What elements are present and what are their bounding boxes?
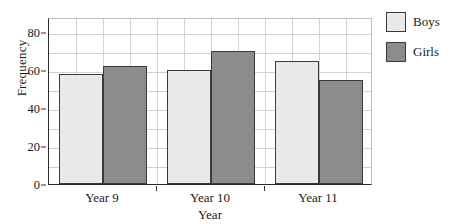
y-tick-label: 40 [28,102,41,117]
bar-year-10-girls [211,51,255,184]
y-axis-ticks: 020406080 [20,18,46,185]
bar-year-10-boys [167,70,211,184]
bar-chart: Frequency 020406080 Year 9Year 10Year 11… [0,0,456,224]
legend-swatch-boys [386,12,406,32]
y-tick-mark [41,33,46,34]
plot-area [48,18,372,185]
bar-year-11-boys [275,61,319,184]
x-tick-mark [156,186,157,191]
chart-legend: BoysGirls [386,12,440,72]
y-tick-label: 0 [34,178,40,193]
x-axis-title: Year [48,207,372,223]
y-tick-label: 80 [28,26,41,41]
x-tick-label: Year 11 [298,190,338,206]
y-tick-mark [41,185,46,186]
legend-label: Boys [413,14,440,30]
y-tick-mark [41,71,46,72]
legend-label: Girls [413,44,439,60]
legend-item-boys: Boys [386,12,440,32]
bar-year-9-girls [103,66,147,184]
x-tick-mark [264,186,265,191]
y-tick-mark [41,109,46,110]
y-tick-label: 20 [28,140,41,155]
x-tick-label: Year 10 [190,190,230,206]
legend-swatch-girls [386,42,406,62]
bar-year-11-girls [319,80,363,184]
x-tick-label: Year 9 [85,190,119,206]
y-tick-mark [41,147,46,148]
bar-year-9-boys [59,74,103,184]
y-tick-label: 60 [28,64,41,79]
legend-item-girls: Girls [386,42,440,62]
bars-layer [49,19,371,184]
